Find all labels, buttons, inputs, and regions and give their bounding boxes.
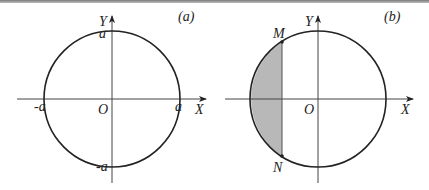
y-axis-label: Y	[305, 14, 315, 29]
panel-tag: (a)	[178, 9, 195, 25]
origin-label: O	[98, 102, 108, 117]
origin-label: O	[304, 102, 314, 117]
figure-canvas: Y (a) a -a a X O -a Y (b) M X O N	[0, 0, 429, 190]
point-n	[280, 154, 284, 158]
x-axis-label: X	[400, 102, 410, 117]
label-top: a	[99, 26, 106, 41]
label-right: a	[175, 99, 182, 114]
x-axis-label: X	[194, 102, 204, 117]
label-m: M	[272, 26, 286, 41]
panel-b: Y (b) M X O N	[225, 9, 413, 183]
label-n: N	[272, 160, 283, 175]
label-left: -a	[34, 99, 46, 114]
label-bottom: -a	[96, 159, 108, 174]
panel-tag: (b)	[384, 9, 401, 25]
panel-a: Y (a) a -a a X O -a	[17, 9, 206, 183]
